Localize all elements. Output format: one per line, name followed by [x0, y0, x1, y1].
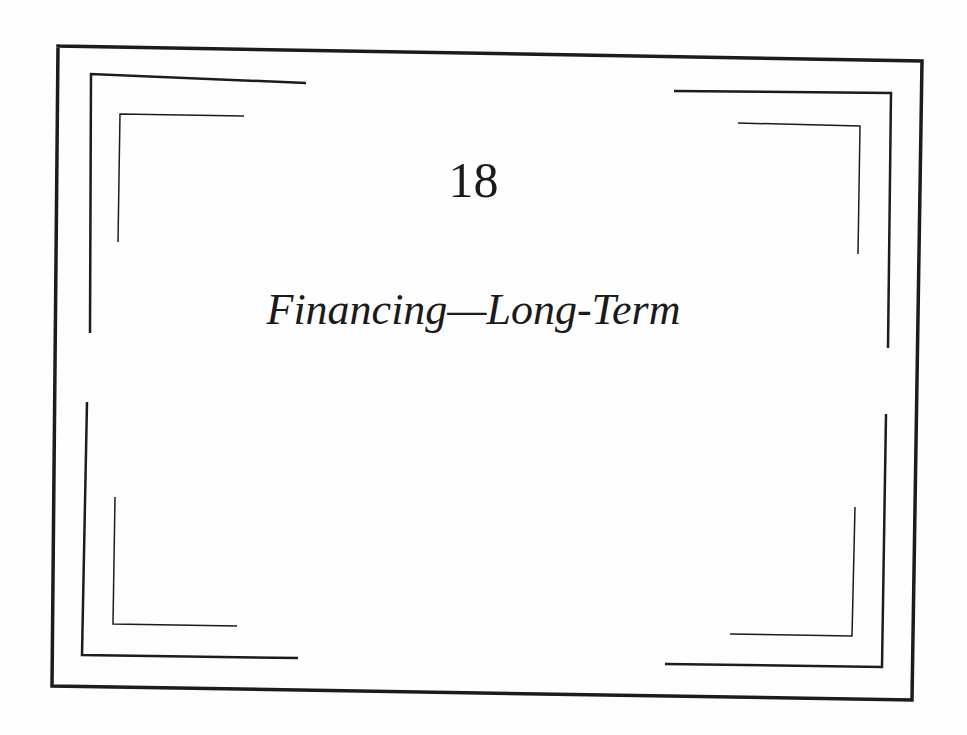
chapter-title: Financing—Long-Term [0, 282, 957, 338]
outer-border [52, 46, 922, 700]
chapter-number: 18 [0, 150, 957, 210]
inner-bracket-bottom-left [113, 497, 237, 626]
inner-bracket-bottom-right [730, 507, 855, 636]
decorative-frame [0, 0, 967, 735]
chapter-title-page: 18 Financing—Long-Term [0, 0, 967, 735]
